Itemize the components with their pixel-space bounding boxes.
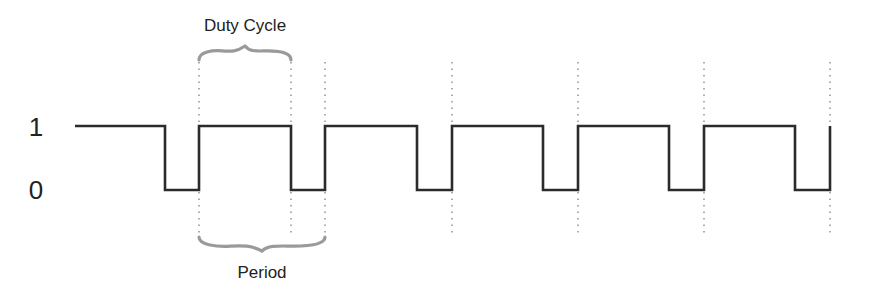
duty-cycle-brace [199,46,291,60]
period-label: Period [237,263,286,282]
level-0-label: 0 [29,175,43,205]
pwm-diagram: Duty Cycle Period 1 0 [0,0,873,293]
period-brace [199,237,325,251]
duty-cycle-label: Duty Cycle [204,16,286,35]
level-1-label: 1 [29,112,43,142]
square-waveform [75,126,830,190]
guide-lines [199,62,830,236]
